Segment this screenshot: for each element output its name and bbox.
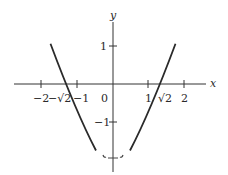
x-tick-label-0: 0	[101, 92, 108, 105]
parabola-plot: x y −2 −√2 −1 0 1 √2 2 1 −1	[0, 0, 228, 175]
y-axis-label: y	[109, 9, 117, 22]
x-tick-label-1: 1	[145, 92, 152, 105]
x-tick-label-neg-sqrt2: −√2	[48, 92, 71, 105]
x-tick-label-neg2: −2	[33, 92, 49, 105]
x-tick-label-2: 2	[181, 92, 188, 105]
x-tick-label-neg1: −1	[73, 92, 89, 105]
y-tick-label-neg1: −1	[94, 116, 110, 129]
chart-container: x y −2 −√2 −1 0 1 √2 2 1 −1	[0, 0, 228, 175]
x-tick-label-sqrt2: √2	[158, 92, 172, 105]
y-tick-label-1: 1	[100, 40, 107, 53]
x-axis-label: x	[210, 77, 217, 90]
